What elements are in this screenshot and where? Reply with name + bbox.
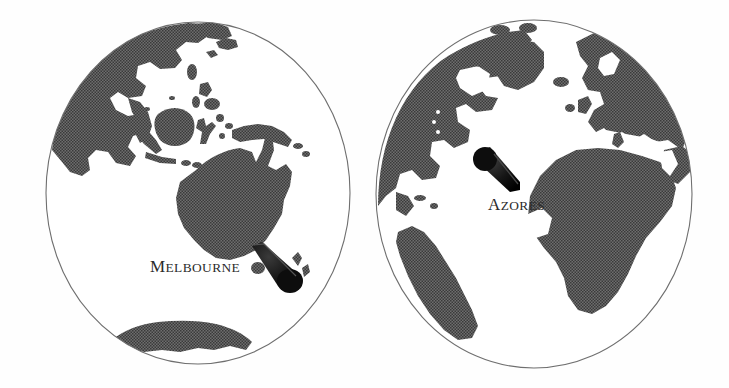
globe-left: MELBOURNE	[42, 22, 350, 364]
land-maluku-1	[216, 114, 224, 122]
land-islet-2	[169, 96, 175, 100]
land-caribbean-1	[414, 195, 426, 201]
land-solomon-1	[293, 143, 303, 149]
land-solomon-2	[302, 151, 310, 157]
label-melbourne-rest: ELBOURNE	[166, 260, 241, 275]
label-azores-initial: A	[488, 195, 501, 214]
land-philippines-mindanao	[204, 98, 220, 110]
land-philippines-palawan	[192, 96, 200, 108]
globes-canvas: MELBOURNE	[0, 0, 729, 388]
label-melbourne: MELBOURNE	[150, 257, 240, 276]
land-maluku-3	[219, 133, 225, 139]
land-arctic-islet-2	[519, 23, 537, 33]
land-caribbean-2	[430, 203, 438, 209]
cone-base-melbourne	[277, 269, 303, 293]
label-azores-rest: ZORES	[501, 198, 545, 213]
cone-base-azores	[473, 147, 497, 171]
land-sunda-1	[181, 160, 191, 166]
land-lake-dot-1	[436, 110, 440, 114]
land-borneo	[154, 108, 194, 146]
globe-figure: MELBOURNE	[0, 0, 729, 388]
land-tasmania	[251, 262, 265, 274]
land-ireland	[565, 104, 575, 112]
label-melbourne-initial: M	[150, 257, 166, 276]
land-lake-dot-3	[436, 130, 440, 134]
land-iceland	[553, 77, 569, 87]
land-taiwan	[187, 64, 197, 80]
land-lake-dot-2	[432, 120, 436, 124]
land-islet-1	[144, 107, 150, 111]
land-maluku-2	[225, 123, 233, 129]
label-azores: AZORES	[488, 195, 545, 214]
globe-right: AZORES	[376, 20, 692, 368]
